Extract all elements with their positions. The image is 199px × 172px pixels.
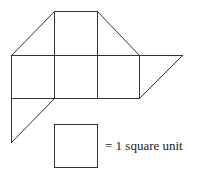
middle-left-square — [12, 56, 55, 99]
bottom-left-triangle-hypotenuse — [12, 99, 55, 143]
legend-label: = 1 square unit — [105, 138, 183, 153]
top-middle-square — [55, 12, 98, 56]
legend-unit-square — [55, 125, 98, 168]
area-figure: = 1 square unit — [0, 0, 199, 172]
right-triangle-hypotenuse — [140, 56, 183, 99]
top-left-triangle-hypotenuse — [12, 12, 55, 56]
middle-center-square — [55, 56, 98, 99]
top-right-triangle-hypotenuse — [98, 12, 140, 56]
middle-right-square — [98, 56, 140, 99]
